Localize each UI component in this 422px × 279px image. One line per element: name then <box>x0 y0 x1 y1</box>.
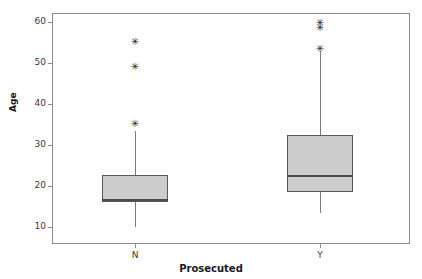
plot-frame <box>52 13 410 244</box>
outlier-marker: ✳ <box>130 64 140 70</box>
y-tick-label: 50 <box>22 58 46 67</box>
x-axis-title: Prosecuted <box>0 263 422 274</box>
outlier-marker: ✳ <box>130 121 140 127</box>
whisker-lower-n <box>135 202 136 227</box>
outlier-marker: ✳ <box>315 20 325 26</box>
y-tick-label: 40 <box>22 99 46 108</box>
whisker-upper-n <box>135 131 136 174</box>
median-line-y <box>287 175 353 177</box>
x-tick-mark <box>135 244 136 248</box>
box-n <box>102 175 168 203</box>
x-tick-mark <box>320 244 321 248</box>
whisker-upper-y <box>320 51 321 135</box>
box-y <box>287 135 353 192</box>
whisker-lower-y <box>320 192 321 213</box>
y-tick-label: 20 <box>22 181 46 190</box>
y-tick-label: 30 <box>22 140 46 149</box>
outlier-marker: ✳ <box>315 46 325 52</box>
chart-title <box>120 0 310 7</box>
y-tick-label: 10 <box>22 222 46 231</box>
outlier-marker: ✳ <box>130 39 140 45</box>
x-tick-label-n: N <box>115 251 155 260</box>
y-axis-title: Age <box>8 92 18 112</box>
y-tick-label: 60 <box>22 17 46 26</box>
median-line-n <box>102 199 168 201</box>
chart-canvas: Age 102030405060 ✳✳✳✳✳✳ NY Prosecuted <box>0 0 422 279</box>
x-tick-label-y: Y <box>300 251 340 260</box>
